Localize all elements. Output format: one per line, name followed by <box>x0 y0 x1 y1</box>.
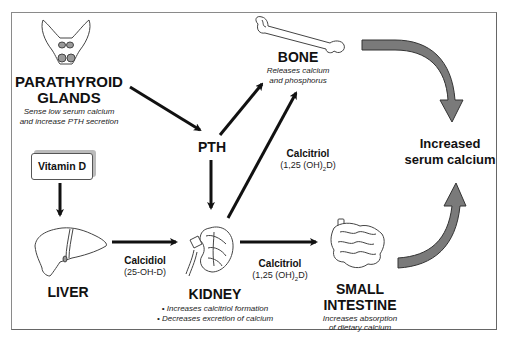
kidney-title: KIDNEY <box>180 286 250 303</box>
calcitriol-bone-formula: (1,25 (OH)2D) <box>272 160 344 175</box>
calcitriol-intestine-label: Calcitriol <box>250 257 310 270</box>
pth-label: PTH <box>192 139 232 156</box>
liver-icon <box>35 228 107 276</box>
arrow-pth-to-bone <box>220 84 262 135</box>
intestine-title-line2: INTESTINE <box>320 297 400 314</box>
kidney-bullet-1: • Increases calcitriol formation <box>150 304 280 314</box>
calcidiol-formula: (25-OH-D) <box>115 267 175 278</box>
result-line1: Increased <box>398 136 502 152</box>
parathyroid-title-line2: GLANDS <box>14 89 124 106</box>
calcidiol-label: Calcidiol <box>115 254 175 267</box>
result-line2: serum calcium <box>398 152 502 168</box>
big-arrow-intestine-to-result <box>398 183 466 268</box>
vitamin-d-box: Vitamin D <box>31 153 93 180</box>
calcitriol-intestine-formula: (1,25 (OH)2D) <box>244 270 316 285</box>
big-arrow-bone-to-result <box>362 40 463 122</box>
bone-icon <box>256 17 344 53</box>
parathyroid-desc-line2: and increase PTH secretion <box>14 117 124 127</box>
calcitriol-bone-label: Calcitriol <box>278 147 338 160</box>
kidney-icon <box>186 227 233 276</box>
arrow-parathyroid-to-pth <box>130 87 200 130</box>
parathyroid-desc-line1: Sense low serum calcium <box>14 107 124 117</box>
parathyroid-title-line1: PARATHYROID <box>14 73 124 90</box>
liver-title: LIVER <box>38 284 98 301</box>
kidney-bullet-2: • Decreases excretion of calcium <box>150 314 280 324</box>
intestine-icon <box>331 219 384 268</box>
intestine-desc-line2: of dietary calcium <box>320 323 400 333</box>
bone-desc-line1: Releases calcium <box>260 66 336 76</box>
bone-title: BONE <box>260 49 336 66</box>
bone-desc-line2: and phosphorus <box>260 76 336 86</box>
parathyroid-icon <box>42 20 90 64</box>
intestine-title-line1: SMALL <box>320 281 400 298</box>
